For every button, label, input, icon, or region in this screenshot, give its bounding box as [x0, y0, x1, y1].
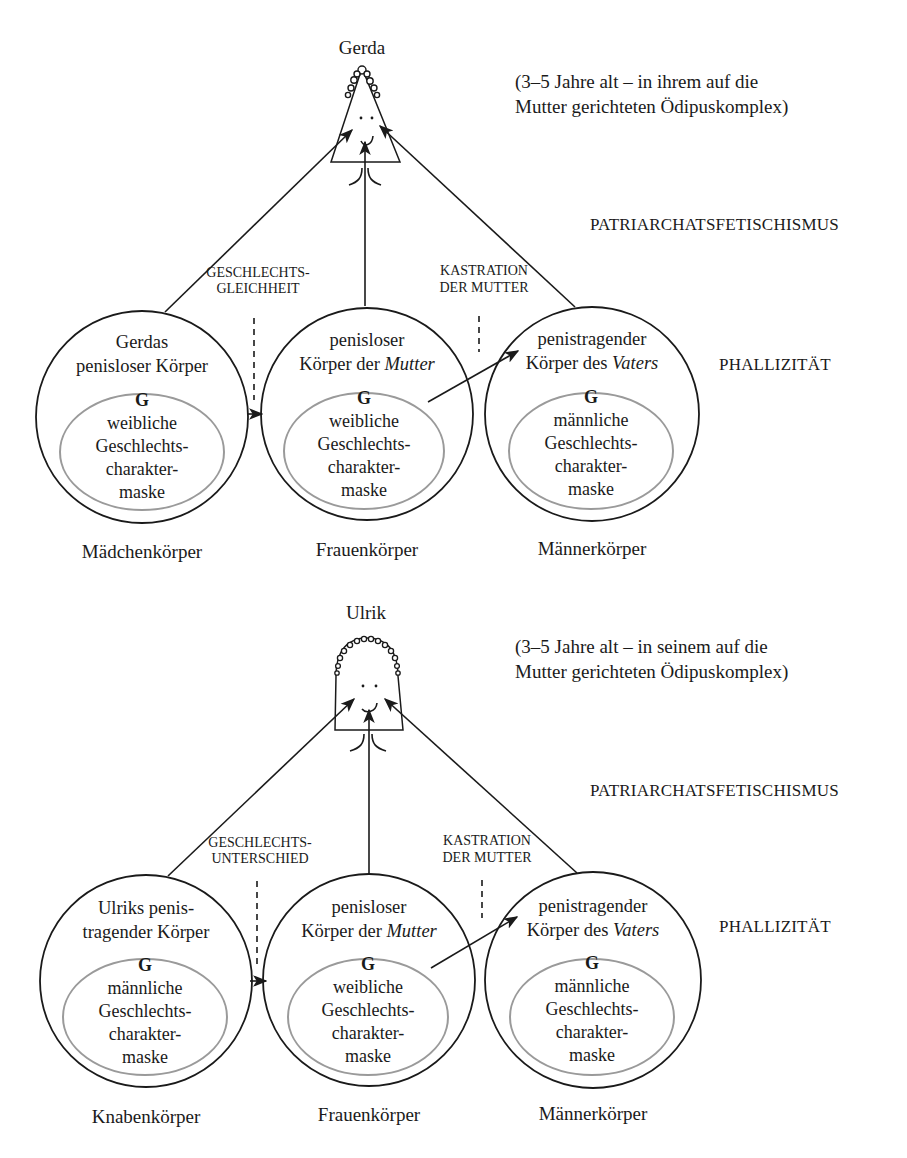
circle-caption-boy: Knabenkörper	[92, 1106, 201, 1127]
child-name-label: Gerda	[339, 37, 386, 58]
inner-label-line4: maske	[345, 1046, 391, 1066]
age-note-line2: Mutter gerichteten Ödipuskomplex)	[515, 96, 788, 118]
diagram-page: Gerda (3–5 Jahre alt	[0, 0, 907, 1158]
inner-label-line4: maske	[568, 479, 614, 499]
diagram-canvas: Gerda (3–5 Jahre alt	[0, 0, 907, 1158]
inner-label-line1: männliche	[108, 978, 183, 998]
diagram-gerda: Gerda (3–5 Jahre alt	[36, 37, 839, 562]
circle-caption-mother: Frauenkörper	[318, 1104, 421, 1125]
circle-title-line2: Körper der Mutter	[301, 921, 437, 941]
inner-g-letter: G	[138, 955, 152, 975]
body-circle-girl: Gerdas penisloser Körper G weibliche Ges…	[36, 311, 248, 523]
circle-title-line1: penisloser	[329, 330, 404, 350]
inner-label-line3: charakter-	[556, 1022, 629, 1042]
age-note-line1: (3–5 Jahre alt – in ihrem auf die	[515, 71, 758, 93]
relation-label-left-line1: GESCHLECHTS-	[206, 265, 310, 280]
inner-label-line4: maske	[569, 1045, 615, 1065]
inner-label-line3: charakter-	[109, 1024, 182, 1044]
inner-label-line3: charakter-	[332, 1023, 405, 1043]
circle-title-line2: Körper des Vaters	[527, 920, 660, 940]
child-name-label: Ulrik	[346, 602, 387, 623]
inner-label-line4: maske	[119, 482, 165, 502]
relation-label-right-line1: KASTRATION	[440, 263, 528, 278]
circle-caption-father: Männerkörper	[539, 1103, 648, 1124]
inner-label-line2: Geschlechts-	[99, 1001, 192, 1021]
body-circle-mother: penisloser Körper der Mutter G weibliche…	[263, 874, 475, 1086]
arrow-mother-to-father	[428, 351, 518, 402]
inner-label-line2: Geschlechts-	[545, 433, 638, 453]
body-circle-boy: Ulriks penis- tragender Körper G männlic…	[40, 875, 252, 1087]
age-note-line1: (3–5 Jahre alt – in seinem auf die	[515, 636, 768, 658]
circle-title-line2: Körper der Mutter	[299, 354, 435, 374]
inner-label-line1: weibliche	[107, 413, 177, 433]
body-circle-father: penistragender Körper des Vaters G männl…	[485, 307, 699, 521]
relation-label-right-line2: DER MUTTER	[439, 280, 529, 295]
inner-label-line3: charakter-	[328, 457, 401, 477]
inner-label-line1: männliche	[555, 976, 630, 996]
relation-label-left-line1: GESCHLECHTS-	[208, 835, 312, 850]
circle-caption-mother: Frauenkörper	[316, 539, 419, 560]
inner-label-line1: weibliche	[333, 977, 403, 997]
inner-g-letter: G	[357, 388, 371, 408]
circle-title-line2: tragender Körper	[83, 922, 210, 942]
inner-label-line1: weibliche	[329, 411, 399, 431]
circle-title-line1: penistragender	[539, 896, 648, 916]
circle-title-line1: Gerdas	[116, 332, 168, 352]
relation-label-right-line2: DER MUTTER	[442, 850, 532, 865]
diagram-ulrik: Ulrik	[40, 602, 839, 1127]
inner-label-line2: Geschlechts-	[546, 999, 639, 1019]
circle-title-line2: Körper des Vaters	[526, 353, 659, 373]
inner-label-line4: maske	[122, 1047, 168, 1067]
relation-label-left-line2: UNTERSCHIED	[211, 851, 308, 866]
inner-label-line1: männliche	[554, 410, 629, 430]
inner-label-line2: Geschlechts-	[96, 436, 189, 456]
level-label-phallizitaet: PHALLIZITÄT	[719, 355, 831, 374]
inner-g-letter: G	[361, 954, 375, 974]
inner-g-letter: G	[584, 387, 598, 407]
relation-label-right-line1: KASTRATION	[443, 833, 531, 848]
inner-label-line4: maske	[341, 480, 387, 500]
age-note-line2: Mutter gerichteten Ödipuskomplex)	[515, 661, 788, 683]
circle-title-line1: Ulriks penis-	[98, 898, 194, 918]
inner-label-line2: Geschlechts-	[318, 434, 411, 454]
body-circle-father: penistragender Körper des Vaters G männl…	[485, 872, 701, 1088]
level-label-patriarchatsfetischismus: PATRIARCHATSFETISCHISMUS	[590, 215, 839, 234]
circle-title-line2: penisloser Körper	[76, 356, 208, 376]
inner-label-line3: charakter-	[106, 459, 179, 479]
level-label-phallizitaet: PHALLIZITÄT	[719, 917, 831, 936]
inner-g-letter: G	[585, 953, 599, 973]
inner-label-line2: Geschlechts-	[322, 1000, 415, 1020]
inner-g-letter: G	[135, 390, 149, 410]
level-label-patriarchatsfetischismus: PATRIARCHATSFETISCHISMUS	[590, 781, 839, 800]
relation-label-left-line2: GLEICHHEIT	[216, 281, 300, 296]
circle-caption-girl: Mädchenkörper	[82, 541, 203, 562]
circle-title-line1: penistragender	[538, 329, 647, 349]
body-circle-mother: penisloser Körper der Mutter G weibliche…	[261, 308, 473, 520]
inner-label-line3: charakter-	[555, 456, 628, 476]
circle-title-line1: penisloser	[331, 897, 406, 917]
circle-caption-father: Männerkörper	[538, 538, 647, 559]
